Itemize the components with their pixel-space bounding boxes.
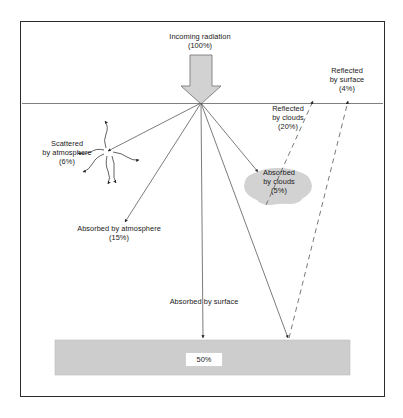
label-reflected-by-surface: Reflected by surface (4%) — [316, 66, 378, 94]
label-refl-clouds-line1: Reflected — [258, 104, 318, 113]
incoming-radiation-arrow — [181, 55, 221, 104]
label-scattered-line3: (6%) — [28, 157, 106, 166]
diagram-canvas: Incoming radiation (100%) Reflected by s… — [0, 0, 403, 418]
label-abs-surface-line1: Absorbed by surface — [140, 297, 268, 306]
ray-to-absorbed-clouds — [201, 103, 258, 172]
label-refl-surface-line3: (4%) — [316, 84, 378, 93]
reflection-surface-dashed — [289, 101, 348, 338]
label-scattered-line2: by atmosphere — [28, 148, 106, 157]
label-refl-surface-line1: Reflected — [316, 66, 378, 75]
label-absorbed-by-atmosphere: Absorbed by atmosphere (15%) — [55, 224, 183, 242]
label-reflected-by-clouds: Reflected by clouds (20%) — [258, 104, 318, 132]
ray-to-absorbed-atmosphere — [125, 103, 201, 222]
label-scattered-by-atmosphere: Scattered by atmosphere (6%) — [28, 139, 106, 167]
label-abs-atmos-line1: Absorbed by atmosphere — [55, 224, 183, 233]
label-abs-clouds-line2: by clouds — [246, 177, 312, 186]
surface-value-badge: 50% — [185, 352, 223, 367]
label-absorbed-by-surface: Absorbed by surface — [140, 297, 268, 306]
label-abs-clouds-line3: (5%) — [246, 186, 312, 195]
ray-to-scatter-node — [108, 103, 201, 151]
label-abs-atmos-line2: (15%) — [55, 233, 183, 242]
label-refl-surface-line2: by surface — [316, 75, 378, 84]
label-incoming-line1: Incoming radiation — [152, 32, 248, 41]
label-absorbed-by-clouds: Absorbed by clouds (5%) — [246, 168, 312, 196]
label-incoming-line2: (100%) — [152, 41, 248, 50]
label-abs-clouds-line1: Absorbed — [246, 168, 312, 177]
label-refl-clouds-line3: (20%) — [258, 122, 318, 131]
label-incoming-radiation: Incoming radiation (100%) — [152, 32, 248, 50]
label-scattered-line1: Scattered — [28, 139, 106, 148]
label-refl-clouds-line2: by clouds — [258, 113, 318, 122]
